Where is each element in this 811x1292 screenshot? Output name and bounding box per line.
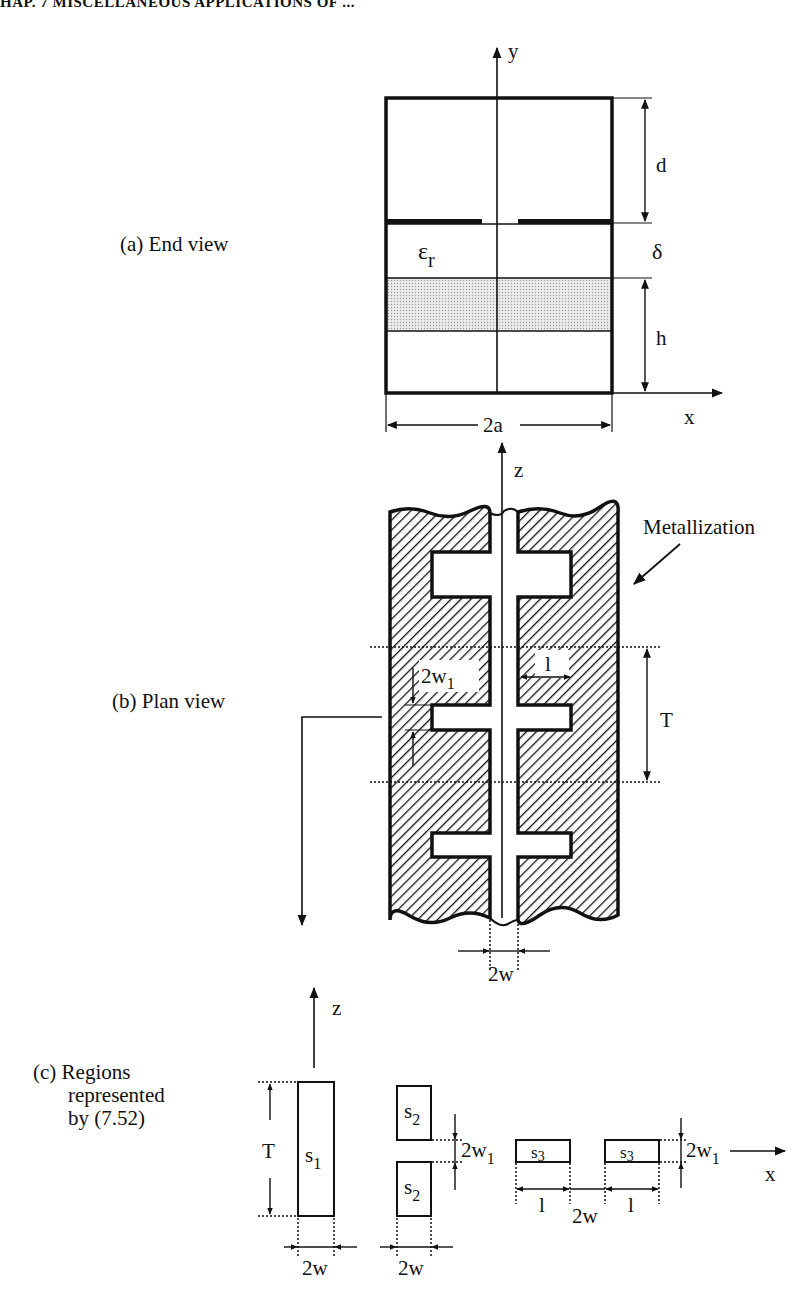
dielectric-layer bbox=[386, 278, 612, 331]
y-axis-label: y bbox=[508, 39, 519, 63]
plan-view-diagram: z Metallization T l 2w1 2w bbox=[302, 443, 755, 986]
metallization-left bbox=[390, 506, 490, 922]
regions-dim-2w1-left-label: 2w1 bbox=[461, 1138, 495, 1167]
dimension-2w-slot-label: 2w bbox=[488, 962, 515, 986]
metallization-label: Metallization bbox=[643, 515, 755, 539]
regions-dim-2w-s1-label: 2w bbox=[302, 1256, 329, 1280]
regions-dim-T-label: T bbox=[262, 1139, 275, 1163]
regions-dim-l-left-label: l bbox=[539, 1193, 545, 1217]
regions-dim-2w1-right-label: 2w1 bbox=[686, 1138, 720, 1167]
regions-dim-2w-center-label: 2w bbox=[572, 1204, 599, 1228]
regions-dim-l-right-label: l bbox=[628, 1193, 634, 1217]
dimension-T-label: T bbox=[660, 708, 673, 732]
x-axis-label: x bbox=[684, 405, 695, 429]
regions-diagram: z s1 T 2w s2 s2 2w1 2w bbox=[258, 988, 785, 1280]
dielectric-epsilon-label: εr bbox=[418, 238, 435, 271]
figure-canvas: y x εr d δ h 2a z Metallizat bbox=[0, 0, 811, 1292]
dimension-h-label: h bbox=[656, 326, 667, 350]
dimension-d-label: d bbox=[656, 153, 667, 177]
dimension-delta-label: δ bbox=[652, 239, 662, 264]
dimension-l-label: l bbox=[545, 652, 551, 676]
section-cut-arrow bbox=[302, 717, 382, 925]
end-view-diagram: y x εr d δ h 2a bbox=[386, 39, 722, 437]
regions-x-axis-label: x bbox=[765, 1162, 776, 1186]
regions-dim-2w-s2-label: 2w bbox=[398, 1256, 425, 1280]
dimension-2a-label: 2a bbox=[483, 413, 504, 437]
z-axis-label: z bbox=[514, 458, 523, 482]
regions-z-axis-label: z bbox=[332, 996, 341, 1020]
metallization-pointer-arrow bbox=[634, 544, 680, 584]
region-s1 bbox=[298, 1082, 334, 1216]
metallization-right bbox=[518, 501, 618, 923]
